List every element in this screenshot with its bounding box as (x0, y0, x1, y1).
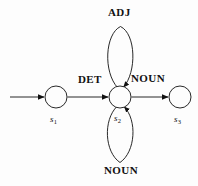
state-label-s1-text: s (50, 114, 54, 124)
state-label-s3-text: s (174, 114, 178, 124)
self-loop-adj-arrow (108, 27, 133, 88)
edge-label-noun-bottom: NOUN (104, 165, 138, 176)
state-label-s3: s3 (174, 115, 181, 124)
state-label-s1-subscript: 1 (54, 118, 57, 125)
state-circle-s2 (109, 86, 131, 108)
edge-label-noun-right: NOUN (131, 73, 165, 84)
fsa-diagram: ADJ DET NOUN NOUN s1 s2 s3 (0, 0, 198, 186)
edge-label-adj: ADJ (108, 7, 131, 18)
edge-label-det: DET (78, 74, 102, 85)
state-label-s2-text: s (114, 113, 118, 123)
state-label-s3-subscript: 3 (178, 118, 181, 125)
state-circle-s3 (169, 86, 191, 108)
fsa-graphics (0, 0, 198, 186)
state-circle-s1 (45, 86, 67, 108)
state-label-s2-subscript: 2 (118, 117, 121, 124)
state-label-s1: s1 (50, 115, 57, 124)
state-label-s2: s2 (114, 114, 121, 123)
